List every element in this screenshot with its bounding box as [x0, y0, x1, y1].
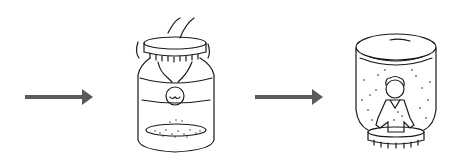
jar-with-lid-icon: [137, 18, 214, 152]
arrow-right-icon: [255, 89, 323, 105]
snow-globe-icon: [356, 34, 436, 148]
arrow-right-icon: [25, 89, 93, 105]
snow-globe-steps-illustration: [0, 0, 458, 160]
